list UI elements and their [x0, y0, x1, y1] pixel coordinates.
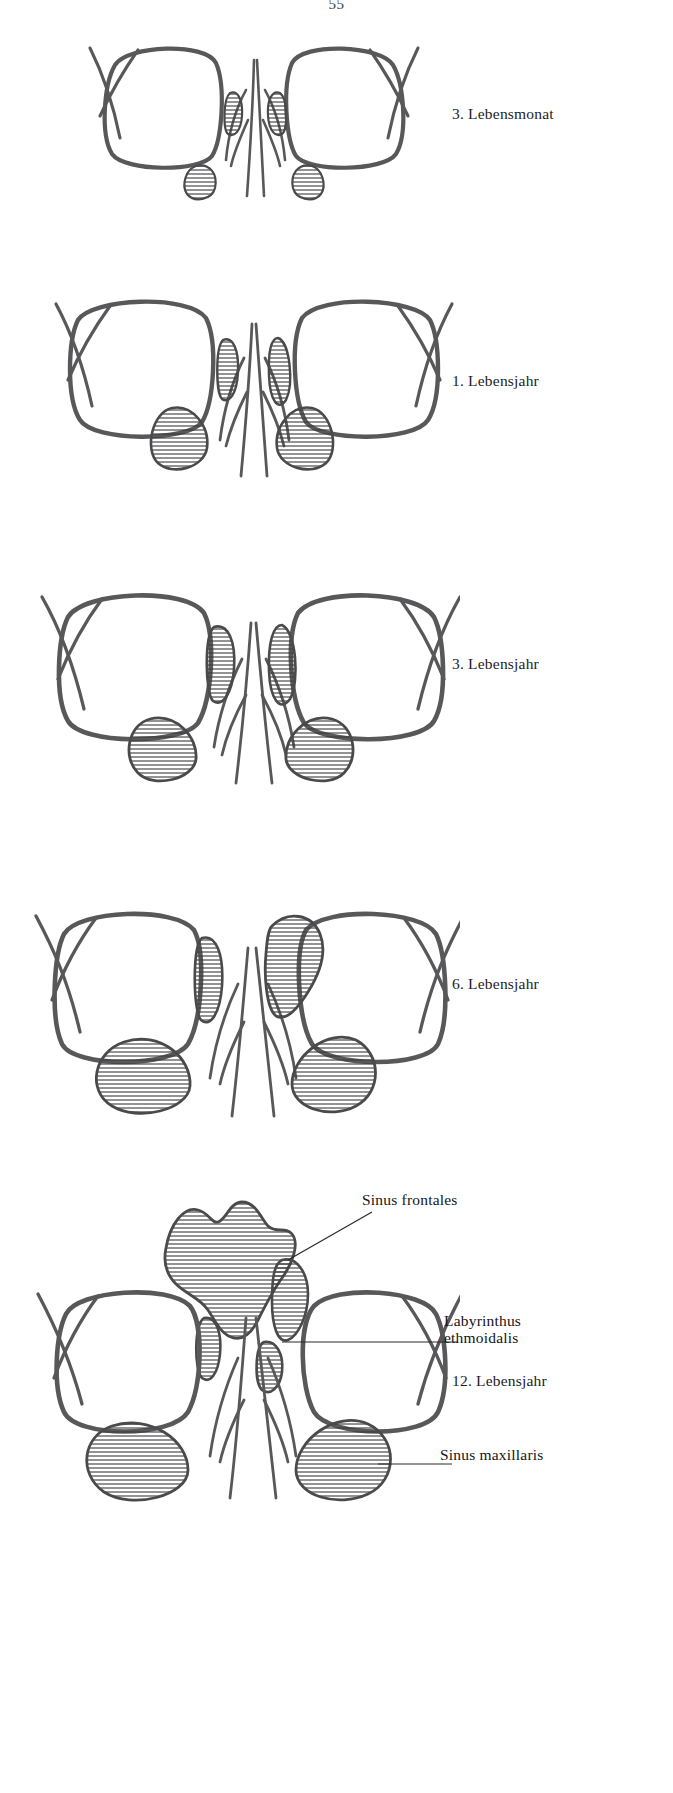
figure-12-lebensjahr: Sinus frontales Labyrinthus ethmoidalis …: [0, 1190, 673, 1550]
figure-1-lebensjahr: 1. Lebensjahr: [0, 280, 673, 530]
figure-1-lebensjahr-drawing: [20, 280, 460, 500]
page-canvas: 55: [0, 0, 673, 1793]
figure-3-lebensjahr: 3. Lebensjahr: [0, 575, 673, 835]
annotation-labyrinthus-line1: Labyrinthus: [444, 1312, 521, 1329]
figure-3-lebensmonat: 3. Lebensmonat: [0, 20, 673, 260]
annotation-sinus-frontales: Sinus frontales: [362, 1191, 458, 1208]
stage-label-3-lebensjahr: 3. Lebensjahr: [452, 655, 539, 673]
figure-6-lebensjahr: 6. Lebensjahr: [0, 890, 673, 1170]
page-number: 55: [0, 0, 673, 13]
figure-3-lebensmonat-drawing: [20, 20, 460, 230]
stage-label-3-lebensmonat: 3. Lebensmonat: [452, 105, 554, 123]
stage-label-12-lebensjahr: 12. Lebensjahr: [452, 1372, 547, 1390]
annotation-labyrinthus-line2: ethmoidalis: [444, 1329, 521, 1346]
figure-6-lebensjahr-drawing: [20, 890, 460, 1140]
figure-12-lebensjahr-drawing: [20, 1190, 460, 1520]
stage-label-1-lebensjahr: 1. Lebensjahr: [452, 372, 539, 390]
annotation-labyrinthus-ethmoidalis: Labyrinthus ethmoidalis: [444, 1312, 521, 1346]
annotation-sinus-maxillaris: Sinus maxillaris: [440, 1446, 544, 1463]
figure-3-lebensjahr-drawing: [20, 575, 460, 805]
stage-label-6-lebensjahr: 6. Lebensjahr: [452, 975, 539, 993]
